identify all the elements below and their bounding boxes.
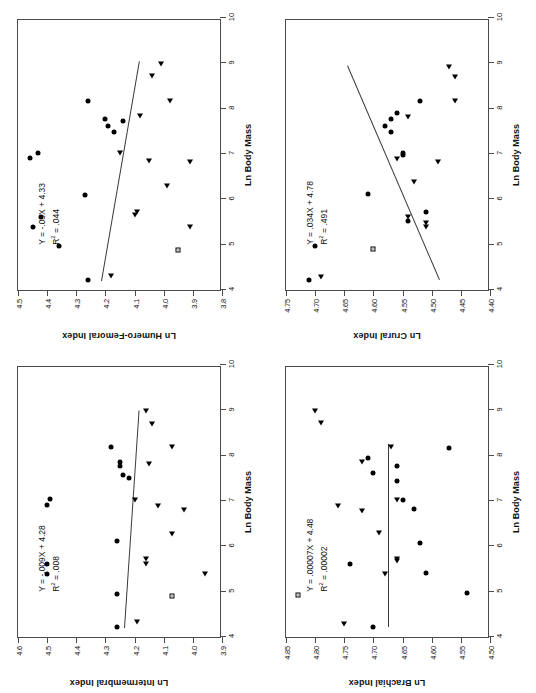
y-axis-tick: 4.40 <box>490 290 491 296</box>
data-point-circle <box>388 130 393 135</box>
data-point-circle <box>394 111 399 116</box>
x-axis-tick-label: 8 <box>227 452 236 456</box>
x-axis-tick-label: 4 <box>227 633 236 637</box>
regression-equation: Y = -.03X + 4.33 <box>37 183 48 245</box>
data-point-circle <box>423 570 428 575</box>
x-axis-tick-label: 6 <box>495 196 504 200</box>
y-axis-tick-label: 4.0 <box>189 646 198 656</box>
regression-line <box>124 410 140 628</box>
y-axis-tick-label: 4.75 <box>283 299 292 313</box>
y-axis-tick: 4.1 <box>135 290 136 296</box>
data-point-triangle <box>394 497 400 502</box>
x-axis-tick: 5 <box>488 590 494 591</box>
plot-frame: 4.54.44.34.24.14.03.93.845678910 <box>17 19 221 291</box>
x-axis-tick-label: 7 <box>495 151 504 155</box>
y-axis-tick-label: 4.0 <box>160 299 169 309</box>
plot-inner <box>286 20 488 290</box>
data-point-circle <box>418 540 423 545</box>
data-point-triangle <box>134 210 140 215</box>
x-axis-tick-label: 4 <box>495 287 504 291</box>
data-point-circle <box>365 191 370 196</box>
data-point-triangle <box>359 508 365 513</box>
data-point-triangle <box>134 620 140 625</box>
x-axis-tick-label: 8 <box>227 106 236 110</box>
y-axis-tick: 4.55 <box>403 290 404 296</box>
data-point-triangle <box>187 225 193 230</box>
r-squared-value: R2 = .00002 <box>317 518 330 591</box>
y-axis-tick: 4.4 <box>47 290 48 296</box>
x-axis-tick: 6 <box>488 545 494 546</box>
data-point-circle <box>126 475 131 480</box>
x-axis-tick: 7 <box>220 153 226 154</box>
y-axis-tick: 4.3 <box>105 637 106 643</box>
panel-rotation-wrapper: 4.754.704.654.604.554.504.454.4045678910… <box>271 3 533 343</box>
data-point-triangle <box>143 556 149 561</box>
data-point-triangle <box>137 114 143 119</box>
x-axis-tick: 4 <box>220 636 226 637</box>
y-axis-title: Ln Intermembral Index <box>17 676 221 690</box>
y-axis-tick-label: 4.70 <box>370 646 379 660</box>
y-axis-tick: 3.8 <box>222 290 223 296</box>
data-point-circle <box>36 150 41 155</box>
x-axis-tick-label: 7 <box>495 497 504 501</box>
x-axis-tick-label: 9 <box>495 60 504 64</box>
data-point-triangle <box>158 62 164 67</box>
panel-body: 4.54.44.34.24.14.03.93.845678910Y = -.03… <box>3 3 265 343</box>
data-point-triangle <box>423 220 429 225</box>
x-axis-title: Ln Body Mass <box>511 19 521 291</box>
data-point-triangle <box>187 160 193 165</box>
y-axis-tick: 4.65 <box>344 290 345 296</box>
data-point-square <box>371 247 376 252</box>
y-axis-tick: 4.2 <box>135 637 136 643</box>
regression-annotation: Y = -.03X + 4.33R2 = .044 <box>37 183 62 245</box>
y-axis-tick-label: 4.50 <box>428 299 437 313</box>
plot-frame: 4.64.54.44.34.24.14.03.945678910 <box>17 366 221 638</box>
data-point-circle <box>120 472 125 477</box>
x-axis-tick: 7 <box>488 500 494 501</box>
data-point-square <box>170 593 175 598</box>
y-axis-tick: 4.0 <box>164 290 165 296</box>
data-point-circle <box>394 478 399 483</box>
y-axis-tick: 4.5 <box>47 637 48 643</box>
data-point-triangle <box>146 158 152 163</box>
x-axis-tick-label: 9 <box>227 407 236 411</box>
data-point-triangle <box>149 421 155 426</box>
x-axis-tick: 7 <box>488 153 494 154</box>
data-point-triangle <box>435 160 441 165</box>
data-point-circle <box>48 496 53 501</box>
panel-brachial: 4.854.804.754.704.654.604.554.5045678910… <box>268 346 536 693</box>
x-axis-tick: 9 <box>488 62 494 63</box>
x-axis-tick: 9 <box>220 62 226 63</box>
data-point-circle <box>400 150 405 155</box>
regression-line <box>388 444 389 627</box>
y-axis-tick: 4.70 <box>315 290 316 296</box>
regression-equation: Y = -.009X + 4.28 <box>37 525 48 591</box>
data-point-circle <box>388 116 393 121</box>
y-axis-tick-label: 4.1 <box>131 299 140 309</box>
data-point-triangle <box>335 503 341 508</box>
data-point-circle <box>45 502 50 507</box>
data-point-triangle <box>376 530 382 535</box>
data-point-triangle <box>202 571 208 576</box>
panel-crural: 4.754.704.654.604.554.504.454.4045678910… <box>268 0 536 346</box>
data-point-circle <box>406 219 411 224</box>
data-point-triangle <box>164 183 170 188</box>
y-axis-tick-label: 4.85 <box>283 646 292 660</box>
plot-frame: 4.754.704.654.604.554.504.454.4045678910 <box>285 19 489 291</box>
regression-line <box>101 61 140 281</box>
y-axis-tick-label: 4.60 <box>428 646 437 660</box>
x-axis-tick-label: 4 <box>227 287 236 291</box>
y-axis-tick: 4.3 <box>76 290 77 296</box>
y-axis-tick-label: 4.3 <box>102 646 111 656</box>
panel-body: 4.854.804.754.704.654.604.554.5045678910… <box>271 350 533 690</box>
data-point-circle <box>394 463 399 468</box>
y-axis-tick-label: 4.75 <box>341 646 350 660</box>
data-point-square <box>295 592 300 597</box>
y-axis-tick-label: 4.3 <box>73 299 82 309</box>
y-axis-tick-label: 4.4 <box>73 646 82 656</box>
plot-inner <box>18 367 220 637</box>
data-point-circle <box>106 123 111 128</box>
data-point-circle <box>423 210 428 215</box>
data-point-triangle <box>388 444 394 449</box>
y-axis-tick-label: 4.2 <box>102 299 111 309</box>
